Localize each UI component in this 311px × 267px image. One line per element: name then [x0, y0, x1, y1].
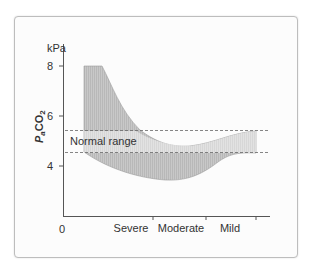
paco2-band	[84, 66, 256, 180]
y-axis-title: PaCO2	[33, 110, 47, 143]
y-unit-label: kPa	[47, 42, 67, 54]
x-origin-label: 0	[59, 223, 65, 235]
chart: kPa 8 6 4 PaCO2 Normal range 0 Severe Mo…	[0, 0, 311, 267]
y-tick-label-8: 8	[47, 60, 53, 72]
svg-text:PaCO2: PaCO2	[33, 110, 47, 143]
y-tick-label-6: 6	[47, 110, 53, 122]
x-label-moderate: Moderate	[158, 222, 204, 234]
x-label-severe: Severe	[114, 222, 149, 234]
y-tick-label-4: 4	[47, 160, 53, 172]
normal-range-label: Normal range	[70, 135, 137, 147]
x-label-mild: Mild	[220, 222, 240, 234]
